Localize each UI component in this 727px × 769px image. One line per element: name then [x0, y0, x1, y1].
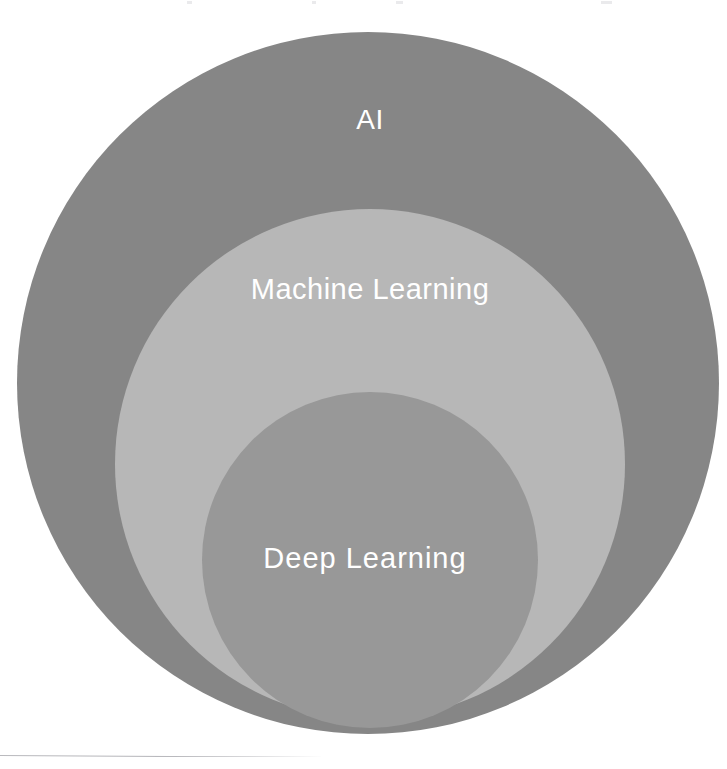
scan-speck-2 — [312, 1, 316, 4]
scan-speck-4 — [601, 1, 612, 4]
scan-artifact-strip — [0, 0, 727, 10]
scan-speck-1 — [187, 1, 192, 4]
bottom-divider-line — [0, 755, 727, 757]
circle-label-machine-learning: Machine Learning — [0, 271, 727, 307]
circle-label-ai: AI — [0, 103, 727, 137]
scan-speck-3 — [396, 1, 403, 4]
venn-diagram: AI Machine Learning Deep Learning — [0, 0, 727, 769]
circle-label-deep-learning: Deep Learning — [0, 540, 727, 576]
bottom-divider — [0, 754, 727, 757]
